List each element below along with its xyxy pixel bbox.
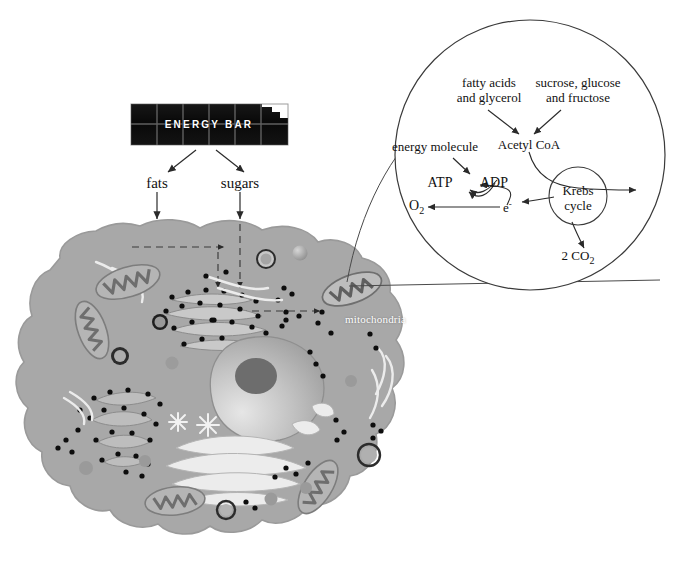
label-sugars: sugars <box>221 175 259 192</box>
label-energy-molecule: energy molecule <box>392 140 478 155</box>
label-atp: ATP <box>428 175 453 191</box>
label-krebs-cycle: Krebs cycle <box>562 184 593 214</box>
co2-subscript: 2 <box>589 255 594 266</box>
macronutrient-to-cell-arrows <box>157 192 240 219</box>
oxygen-symbol: O <box>409 198 419 213</box>
sugars-line1: sucrose, glucose <box>535 76 620 91</box>
krebs-line2: cycle <box>562 199 593 214</box>
label-acetyl-coa: Acetyl CoA <box>498 138 560 153</box>
bar-to-macronutrient-arrows <box>168 150 244 172</box>
nucleolus <box>235 358 277 394</box>
label-electron: e- <box>503 199 512 216</box>
label-sugars-inset: sucrose, glucose and fructose <box>535 76 620 106</box>
oxygen-subscript: 2 <box>419 205 424 216</box>
label-fats: fats <box>146 175 168 192</box>
sugars-line2: and fructose <box>535 91 620 106</box>
fatty-acids-line1: fatty acids <box>457 76 522 91</box>
label-adp: ADP <box>480 175 508 191</box>
co2-prefix: 2 CO <box>562 248 590 263</box>
label-fatty-acids: fatty acids and glycerol <box>457 76 522 106</box>
label-oxygen: O2 <box>409 198 424 216</box>
label-co2: 2 CO2 <box>562 249 595 266</box>
figure-canvas: ENERGY BAR fats sugars mitochondria fatt… <box>0 0 680 569</box>
krebs-line1: Krebs <box>562 184 593 199</box>
label-mitochondria: mitochondria <box>345 313 406 326</box>
energy-bar-label: ENERGY BAR <box>165 119 254 130</box>
fatty-acids-line2: and glycerol <box>457 91 522 106</box>
electron-superscript: - <box>509 199 512 209</box>
